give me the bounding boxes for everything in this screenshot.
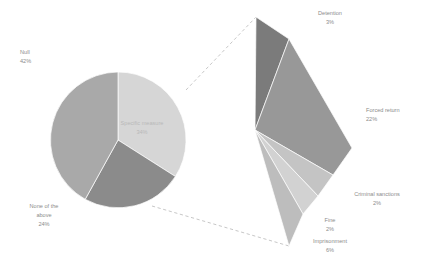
label-forced-return-value: 22% bbox=[366, 116, 377, 122]
label-fine-value: 2% bbox=[326, 226, 334, 232]
label-specific-measure-value: 34% bbox=[136, 129, 147, 135]
label-null-name: Null bbox=[20, 49, 30, 55]
label-criminal-sanctions-name: Criminal sanctions bbox=[354, 191, 400, 197]
label-imprisonment-name: Imprisonment bbox=[313, 238, 347, 244]
main-pie-group bbox=[50, 72, 186, 208]
exploded-pie-group bbox=[255, 17, 352, 246]
label-detention-name: Detention bbox=[318, 10, 342, 16]
label-imprisonment-value: 6% bbox=[326, 247, 334, 253]
label-null-value: 42% bbox=[20, 58, 31, 64]
label-specific-measure-name: Specific measure bbox=[121, 120, 164, 126]
pie-of-pie-chart: Null 42% None of the above 24% Specific … bbox=[0, 0, 422, 270]
label-none-of-the-above-line1: None of the bbox=[30, 203, 59, 209]
connector-line-bottom bbox=[152, 206, 289, 246]
label-forced-return-name: Forced return bbox=[366, 107, 400, 113]
label-fine-name: Fine bbox=[325, 217, 336, 223]
chart-canvas: Null 42% None of the above 24% Specific … bbox=[0, 0, 422, 270]
label-criminal-sanctions-value: 2% bbox=[373, 200, 381, 206]
label-none-of-the-above-value: 24% bbox=[38, 221, 49, 227]
connector-line-top bbox=[186, 17, 256, 90]
label-none-of-the-above-line2: above bbox=[36, 212, 51, 218]
label-detention-value: 3% bbox=[326, 19, 334, 25]
